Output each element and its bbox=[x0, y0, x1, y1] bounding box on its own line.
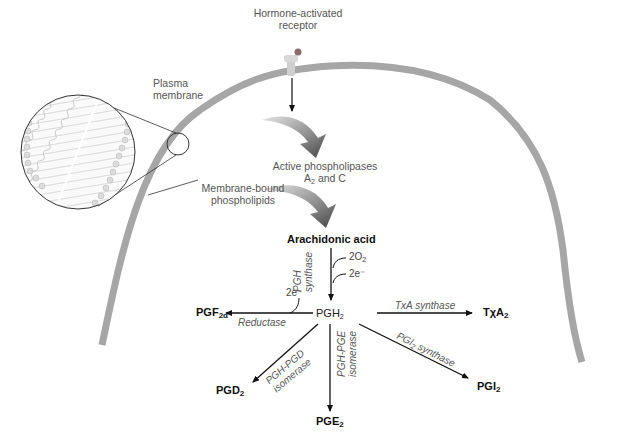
pgh-synthase-line2: synthase bbox=[303, 252, 314, 292]
pgd2-product: PGD2 bbox=[216, 384, 244, 398]
pgh-pge-line1: PGH-PGE bbox=[336, 331, 347, 377]
o2-cofactor: 2O2 bbox=[349, 251, 366, 263]
arachidonic-acid-label: Arachidonic acid bbox=[287, 233, 376, 245]
membrane-bound-line1: Membrane-bound bbox=[198, 182, 288, 194]
txa-sub: 2 bbox=[504, 311, 508, 320]
o2-text: 2O bbox=[349, 251, 362, 262]
pgh-pge-isomerase-label: PGH-PGE isomerase bbox=[336, 331, 358, 377]
txa2-product: TχA2 bbox=[483, 306, 508, 320]
plasma-membrane-label: Plasma membrane bbox=[153, 77, 203, 101]
pgi-sub: 2 bbox=[496, 385, 500, 394]
pgf-sub: 2α bbox=[219, 311, 228, 320]
pge-text: PGE bbox=[316, 415, 339, 427]
membrane-bound-label: Membrane-bound phospholipids bbox=[198, 182, 288, 206]
bilayer-zoom-icon bbox=[10, 82, 140, 238]
phospholipases-line1: Active phospholipases bbox=[260, 160, 390, 172]
pgh2-node: PGH2 bbox=[316, 307, 344, 320]
pgd-text: PGD bbox=[216, 384, 240, 396]
reductase-label: Reductase bbox=[238, 317, 286, 328]
pge-sub: 2 bbox=[339, 420, 343, 429]
pgh2-text: PGH bbox=[316, 307, 340, 319]
o2-sub: 2 bbox=[362, 256, 366, 263]
membrane-bound-line2: phospholipids bbox=[198, 194, 288, 206]
pgi-text: PGI bbox=[477, 380, 496, 392]
pgh-pge-line2: isomerase bbox=[347, 331, 358, 377]
pgh-synthase-line1: PGH bbox=[292, 252, 303, 292]
txa-synthase-label: TxA synthase bbox=[395, 300, 455, 311]
e-cofactor-1: 2e⁻ bbox=[349, 268, 365, 279]
pgh2-sub: 2 bbox=[340, 313, 344, 320]
diagram-canvas bbox=[0, 0, 626, 441]
plasma-label-line1: Plasma bbox=[153, 77, 203, 89]
pgd-sub: 2 bbox=[240, 389, 244, 398]
pgf2a-product: PGF2α bbox=[196, 306, 228, 320]
pgf-text: PGF bbox=[196, 306, 219, 318]
txa-text: TχA bbox=[483, 306, 504, 318]
receptor-label-line1: Hormone-activated bbox=[249, 7, 347, 19]
and-c: and C bbox=[315, 172, 346, 184]
receptor-label-line2: receptor bbox=[249, 19, 347, 31]
pge2-product: PGE2 bbox=[316, 415, 344, 429]
receptor-label: Hormone-activated receptor bbox=[249, 7, 347, 31]
pgh-synthase-label: PGH synthase bbox=[292, 252, 314, 292]
curved-arrow-1 bbox=[262, 117, 326, 158]
pgi2-product: PGI2 bbox=[477, 380, 500, 394]
plasma-label-line2: membrane bbox=[153, 89, 203, 101]
